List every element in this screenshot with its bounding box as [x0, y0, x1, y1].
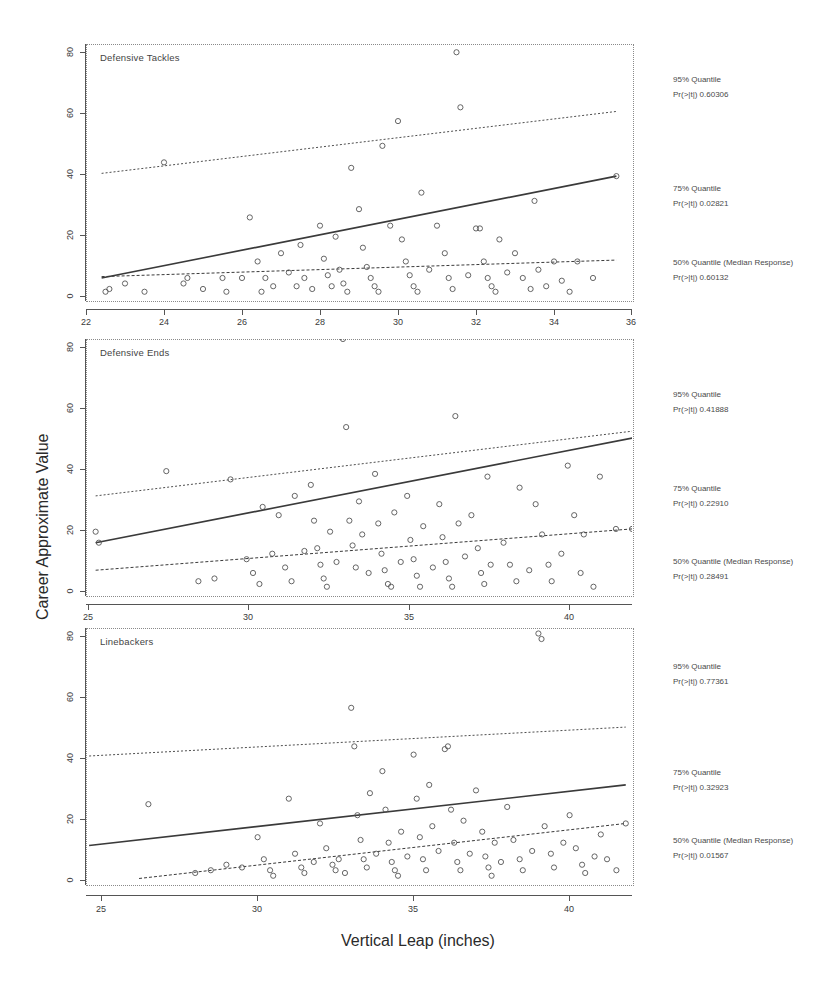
x-axis-label: Vertical Leap (inches) — [0, 932, 836, 950]
data-point — [501, 540, 506, 545]
data-point — [356, 207, 361, 212]
data-point — [551, 865, 556, 870]
data-point — [437, 502, 442, 507]
data-point — [417, 835, 422, 840]
data-point — [382, 568, 387, 573]
data-point — [349, 165, 354, 170]
data-point — [327, 529, 332, 534]
data-point — [613, 526, 618, 531]
data-point — [546, 562, 551, 567]
data-point — [551, 259, 556, 264]
data-point — [565, 463, 570, 468]
x-tick-3-30: 30 — [247, 904, 267, 914]
data-point — [559, 278, 564, 283]
data-point — [212, 576, 217, 581]
data-point — [347, 518, 352, 523]
data-point — [337, 267, 342, 272]
data-point — [255, 835, 260, 840]
data-point — [559, 551, 564, 556]
data-point — [486, 865, 491, 870]
fit-line-2 — [96, 438, 632, 543]
data-point — [283, 565, 288, 570]
data-point — [142, 289, 147, 294]
y-tick-2-40: 40 — [65, 459, 75, 479]
data-point — [379, 551, 384, 556]
data-point — [505, 270, 510, 275]
data-point — [302, 548, 307, 553]
data-point — [567, 289, 572, 294]
y-tick-1-80: 80 — [65, 42, 75, 62]
data-point — [597, 474, 602, 479]
data-point — [434, 223, 439, 228]
x-tick-3-35: 35 — [403, 904, 423, 914]
data-point — [423, 868, 428, 873]
data-point — [548, 851, 553, 856]
annotation-2-q95-label: 95% Quantile — [673, 391, 729, 399]
data-point — [483, 854, 488, 859]
data-point — [311, 518, 316, 523]
data-point — [380, 143, 385, 148]
data-point — [349, 705, 354, 710]
data-point — [286, 796, 291, 801]
data-point — [336, 857, 341, 862]
data-point — [308, 482, 313, 487]
data-point — [292, 851, 297, 856]
data-point — [333, 868, 338, 873]
quantile-regression-figure: Career Approximate Value Vertical Leap (… — [0, 0, 836, 993]
annotation-2-q50: 50% Quantile (Median Response) Pr(>|t|) … — [673, 558, 793, 582]
data-point — [389, 859, 394, 864]
data-point — [480, 829, 485, 834]
data-point — [405, 854, 410, 859]
data-point — [398, 559, 403, 564]
data-point — [527, 568, 532, 573]
annotation-2-q75-label: 75% Quantile — [673, 485, 729, 493]
annotation-1-q95: 95% Quantile Pr(>|t|) 0.60306 — [673, 76, 729, 100]
data-point — [317, 821, 322, 826]
x-tick-3-25: 25 — [91, 904, 111, 914]
data-point — [536, 631, 541, 636]
annotation-1-q75-label: 75% Quantile — [673, 185, 729, 193]
data-point — [485, 474, 490, 479]
data-point — [294, 284, 299, 289]
data-point — [224, 289, 229, 294]
data-point — [517, 485, 522, 490]
data-point — [533, 502, 538, 507]
data-point — [386, 840, 391, 845]
data-point — [93, 529, 98, 534]
data-point — [407, 273, 412, 278]
data-point — [493, 289, 498, 294]
data-point — [539, 636, 544, 641]
annotation-1-q50-label: 50% Quantile (Median Response) — [673, 259, 793, 267]
data-point — [469, 513, 474, 518]
data-point — [573, 846, 578, 851]
data-point — [380, 769, 385, 774]
annotation-3-q95-pvalue: Pr(>|t|) 0.77361 — [673, 678, 729, 686]
data-point — [590, 275, 595, 280]
data-point — [350, 543, 355, 548]
fit-line-1 — [102, 111, 617, 173]
data-point — [415, 289, 420, 294]
data-point — [360, 532, 365, 537]
data-point — [414, 796, 419, 801]
data-point — [315, 546, 320, 551]
y-tick-3-80: 80 — [65, 626, 75, 646]
data-point — [420, 857, 425, 862]
data-point — [592, 854, 597, 859]
data-point — [340, 339, 345, 342]
data-point — [430, 824, 435, 829]
data-point — [260, 504, 265, 509]
data-point — [453, 413, 458, 418]
data-point — [395, 118, 400, 123]
data-point — [200, 286, 205, 291]
data-point — [329, 284, 334, 289]
panel-defensive-ends: Defensive Ends 0 20 40 60 80 25 30 35 40… — [0, 295, 836, 625]
data-point — [374, 851, 379, 856]
data-point — [247, 215, 252, 220]
annotation-2-q50-pvalue: Pr(>|t|) 0.28491 — [673, 573, 793, 581]
plot-canvas-2 — [86, 339, 632, 595]
data-point — [520, 275, 525, 280]
data-point — [361, 857, 366, 862]
data-point — [244, 557, 249, 562]
data-point — [567, 813, 572, 818]
data-point — [364, 264, 369, 269]
